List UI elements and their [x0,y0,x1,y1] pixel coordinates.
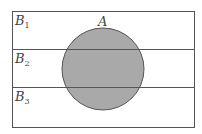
set-a-label: A [97,14,107,29]
venn-diagram: A B1 B2 B3 [0,0,202,134]
set-a-circle [62,28,144,110]
